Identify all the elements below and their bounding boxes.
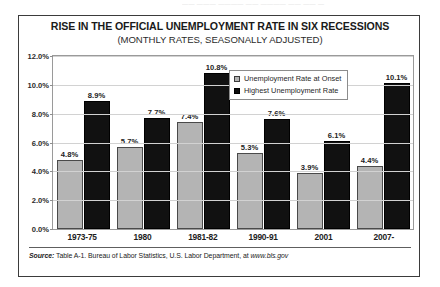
chart-page: —— ——— ———— —— ———— —— —— — RISE IN THE … <box>0 0 440 287</box>
source-label: Source: <box>29 252 54 259</box>
page-title: RISE IN THE OFFICIAL UNEMPLOYMENT RATE I… <box>19 20 421 33</box>
x-axis-tick-label: 1990-91 <box>233 232 293 242</box>
legend-swatch-onset-icon <box>234 76 240 82</box>
gridline <box>53 114 413 115</box>
chart-subtitle: (MONTHLY RATES, SEASONALLY ADJUSTED) <box>19 33 421 46</box>
source-divider <box>29 247 411 248</box>
bar-value-label: 7.7% <box>148 108 165 117</box>
bar-value-label: 4.4% <box>361 156 378 165</box>
gridline <box>53 171 413 172</box>
y-axis-tick-label: 0.0% <box>32 225 49 234</box>
source-text: Table A-1. Bureau of Labor Statistics, U… <box>54 252 250 259</box>
bar-onset[interactable]: 7.4% <box>177 122 203 229</box>
source-note: Source: Table A-1. Bureau of Labor Stati… <box>29 252 411 259</box>
y-axis-tick-mark <box>50 229 53 230</box>
bar-highest[interactable]: 6.1% <box>324 141 350 229</box>
y-axis-tick-mark <box>50 114 53 115</box>
x-axis-category-labels: 1973-7519801981-821990-9120012007- <box>52 232 414 242</box>
y-axis-tick-mark <box>50 200 53 201</box>
source-url[interactable]: www.bls.gov <box>250 252 288 259</box>
legend-label-onset: Unemployment Rate at Onset <box>244 74 341 84</box>
bar-highest[interactable]: 10.1% <box>384 83 410 229</box>
gridline <box>53 200 413 201</box>
y-axis-tick-label: 10.0% <box>27 80 49 89</box>
y-axis-tick-label: 12.0% <box>27 52 49 61</box>
x-axis-tick-label: 2001 <box>293 232 353 242</box>
y-axis-tick-mark <box>50 171 53 172</box>
y-axis-tick-mark <box>50 85 53 86</box>
x-axis-tick-label: 1973-75 <box>52 232 112 242</box>
bar-onset[interactable]: 5.7% <box>117 147 143 229</box>
bar-value-label: 10.1% <box>386 73 408 82</box>
bar-value-label: 5.3% <box>241 143 258 152</box>
bar-highest[interactable]: 10.8% <box>204 73 230 229</box>
legend-swatch-highest-icon <box>234 88 240 94</box>
gridline <box>53 143 413 144</box>
bar-onset[interactable]: 4.4% <box>357 166 383 229</box>
bar-value-label: 6.1% <box>328 131 345 140</box>
chart-legend: Unemployment Rate at Onset Highest Unemp… <box>229 70 348 100</box>
legend-item-onset[interactable]: Unemployment Rate at Onset <box>234 74 341 84</box>
legend-label-highest: Highest Unemployment Rate <box>244 86 338 96</box>
gridline <box>53 56 413 57</box>
x-axis-tick-label: 2007- <box>354 232 414 242</box>
x-axis-tick-label: 1981-82 <box>173 232 233 242</box>
x-axis-tick-label: 1980 <box>112 232 172 242</box>
bar-onset[interactable]: 4.8% <box>57 160 83 229</box>
bar-value-label: 5.7% <box>121 137 138 146</box>
bar-value-label: 8.9% <box>88 91 105 100</box>
chart-title-block: RISE IN THE OFFICIAL UNEMPLOYMENT RATE I… <box>19 20 421 46</box>
y-axis-tick-label: 6.0% <box>32 138 49 147</box>
bar-value-label: 10.8% <box>206 63 228 72</box>
bar-value-label: 4.8% <box>61 150 78 159</box>
y-axis-tick-label: 4.0% <box>32 167 49 176</box>
y-axis-tick-mark <box>50 56 53 57</box>
y-axis-tick-label: 8.0% <box>32 109 49 118</box>
bar-onset[interactable]: 5.3% <box>237 153 263 229</box>
legend-item-highest[interactable]: Highest Unemployment Rate <box>234 86 341 96</box>
bar-highest[interactable]: 7.7% <box>144 118 170 229</box>
y-axis-tick-label: 2.0% <box>32 196 49 205</box>
bar-highest[interactable]: 7.6% <box>264 119 290 229</box>
bar-highest[interactable]: 8.9% <box>84 101 110 229</box>
figure-box: RISE IN THE OFFICIAL UNEMPLOYMENT RATE I… <box>18 15 420 277</box>
clipped-header-text: —— ——— ———— —— ———— —— —— — <box>182 1 438 7</box>
y-axis-tick-mark <box>50 143 53 144</box>
